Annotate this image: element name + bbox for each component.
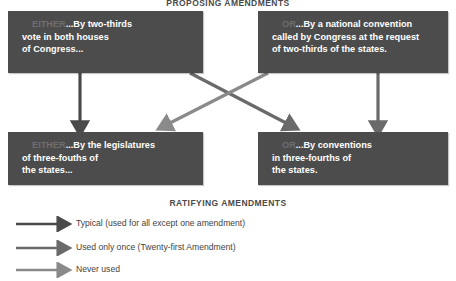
box-propose-convention-line3: of two-thirds of the states. [258, 43, 448, 56]
box-propose-convention-text1: ...By a national convention [296, 19, 412, 29]
box-propose-congress-line1: EITHER...By two-thirds [8, 18, 203, 31]
box-propose-congress-text1: ...By two-thirds [66, 19, 132, 29]
either-prefix: EITHER [32, 19, 66, 29]
box-ratify-legislatures-line2: of three-fouths of [8, 152, 203, 165]
arrow-diagonal-right-to-left [168, 73, 268, 124]
legend-item-never-used: Never used [0, 262, 456, 281]
box-ratify-conventions-line3: the states. [258, 164, 448, 177]
box-ratify-legislatures-text1: ...By the legislatures [66, 140, 155, 150]
legend-label-used-once: Used only once (Twenty-first Amendment) [76, 242, 236, 252]
box-ratify-conventions-line2: in three-fourths of [258, 152, 448, 165]
box-propose-convention-line2: called by Congress at the request [258, 31, 448, 44]
box-ratify-legislatures-line1: EITHER...By the legislatures [8, 139, 203, 152]
legend-arrow-never-used-icon [14, 262, 72, 278]
box-ratify-conventions-text1: ...By conventions [296, 140, 372, 150]
box-ratify-conventions: OR...By conventions in three-fourths of … [258, 132, 448, 185]
box-ratify-legislatures-line3: the states... [8, 164, 203, 177]
legend-label-typical: Typical (used for all except one amendme… [76, 218, 245, 228]
legend-label-never-used: Never used [76, 264, 120, 274]
box-ratify-conventions-line1: OR...By conventions [258, 139, 448, 152]
legend-item-used-once: Used only once (Twenty-first Amendment) [0, 240, 456, 260]
either-prefix: EITHER [32, 140, 66, 150]
amendment-process-diagram: PROPOSING AMENDMENTS [0, 0, 456, 281]
box-propose-congress-line3: of Congress... [8, 43, 203, 56]
legend-arrow-typical-icon [14, 216, 72, 232]
box-propose-convention: OR...By a national convention called by … [258, 11, 448, 73]
box-propose-congress: EITHER...By two-thirds vote in both hous… [8, 11, 203, 73]
legend-arrow-used-once-icon [14, 240, 72, 256]
box-propose-congress-line2: vote in both houses [8, 31, 203, 44]
legend-item-typical: Typical (used for all except one amendme… [0, 216, 456, 236]
box-propose-convention-line1: OR...By a national convention [258, 18, 448, 31]
box-ratify-legislatures: EITHER...By the legislatures of three-fo… [8, 132, 203, 185]
or-prefix: OR [282, 140, 296, 150]
arrow-diagonal-left-to-right [190, 73, 288, 124]
or-prefix: OR [282, 19, 296, 29]
ratifying-amendments-title: RATIFYING AMENDMENTS [0, 198, 456, 208]
